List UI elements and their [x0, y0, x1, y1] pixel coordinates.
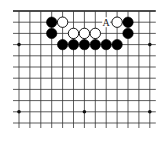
white-stone-icon	[112, 17, 122, 27]
star-point-icon	[17, 43, 21, 47]
black-stone-icon	[101, 39, 111, 49]
black-stone-icon	[47, 17, 57, 27]
black-stone-icon	[123, 28, 133, 38]
black-stone-icon	[47, 28, 57, 38]
star-point-icon	[148, 110, 152, 114]
star-point-icon	[17, 110, 21, 114]
star-point-icon	[148, 43, 152, 47]
black-stone-icon	[112, 39, 122, 49]
labels-layer: A	[102, 17, 110, 28]
black-stone-icon	[123, 17, 133, 27]
white-stone-icon	[79, 28, 89, 38]
black-stone-icon	[90, 39, 100, 49]
white-stone-icon	[68, 28, 78, 38]
black-stone-icon	[68, 39, 78, 49]
go-board-diagram: A	[0, 0, 165, 141]
point-label-a: A	[103, 17, 111, 28]
black-stone-icon	[57, 39, 67, 49]
white-stone-icon	[90, 28, 100, 38]
star-point-icon	[83, 110, 87, 114]
black-stone-icon	[79, 39, 89, 49]
white-stone-icon	[57, 17, 67, 27]
